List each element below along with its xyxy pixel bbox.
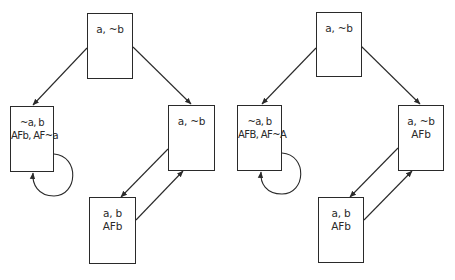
node-label: a, ~b (317, 22, 361, 35)
node-label: AFB, AF~A (238, 128, 281, 141)
right-diagram-node-bottom: a, b AFb (318, 197, 364, 263)
node-label: AFb (90, 220, 135, 233)
node-label: a, ~b (169, 115, 214, 128)
right-diagram-node-top: a, ~b (316, 12, 362, 77)
edge-top-to-right (361, 46, 420, 104)
edge-top-to-right (133, 47, 191, 104)
edge-right-to-bottom (121, 149, 168, 197)
node-label: AFb, AF~a (11, 129, 53, 142)
node-label: AFb (319, 220, 363, 233)
edge-top-to-left (262, 48, 316, 104)
left-diagram-node-left: ~a, b AFb, AF~a (10, 106, 54, 172)
left-diagram-node-bottom: a, b AFb (89, 197, 136, 264)
left-diagram-node-right: a, ~b (168, 105, 215, 171)
node-label: a, b (319, 207, 363, 220)
left-diagram-node-top: a, ~b (87, 13, 133, 79)
node-label: a, ~b (399, 115, 443, 128)
edge-bottom-to-right (364, 171, 412, 220)
edge-top-to-left (33, 48, 87, 105)
node-label: ~a, b (11, 116, 53, 129)
edge-bottom-to-right (136, 171, 183, 220)
node-label: AFb (399, 128, 443, 141)
node-label: a, ~b (88, 23, 132, 36)
edges-layer (0, 0, 455, 280)
node-label: ~a, b (238, 115, 281, 128)
right-diagram-node-right: a, ~b AFb (398, 105, 444, 171)
node-label: a, b (90, 207, 135, 220)
right-diagram-node-left: ~a, b AFB, AF~A (237, 105, 282, 171)
edge-right-to-bottom (350, 148, 398, 197)
